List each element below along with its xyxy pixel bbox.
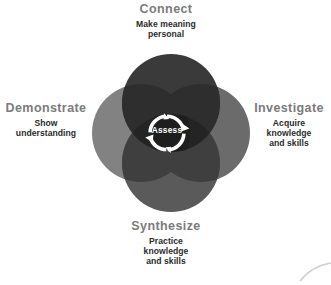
lobe-title-investigate: Investigate — [247, 101, 331, 116]
lobe-subtitle-synthesize-line-1: Practice — [106, 236, 226, 246]
lobe-label-synthesize: Synthesize Practice knowledge and skills — [106, 219, 226, 266]
lobe-subtitle-demonstrate: Show understanding — [2, 118, 90, 138]
lobe-subtitle-synthesize: Practice knowledge and skills — [106, 236, 226, 266]
lobe-label-connect: Connect Make meaning personal — [106, 2, 226, 39]
lobe-subtitle-investigate: Acquire knowledge and skills — [247, 118, 331, 148]
lobe-subtitle-synthesize-line-2: knowledge — [106, 246, 226, 256]
lobe-title-synthesize: Synthesize — [106, 219, 226, 234]
lobe-title-connect: Connect — [106, 2, 226, 17]
lobe-label-demonstrate: Demonstrate Show understanding — [2, 101, 90, 138]
lobe-label-investigate: Investigate Acquire knowledge and skills — [247, 101, 331, 148]
venn-diagram-root: Assess Connect Make meaning personal Inv… — [0, 0, 331, 285]
lobe-subtitle-demonstrate-line-1: Show — [2, 118, 90, 128]
lobe-subtitle-connect: Make meaning personal — [106, 19, 226, 39]
corner-arc-decoration — [300, 263, 331, 281]
lobe-subtitle-investigate-line-3: and skills — [247, 138, 331, 148]
lobe-subtitle-connect-line-2: personal — [106, 29, 226, 39]
lobe-subtitle-demonstrate-line-2: understanding — [2, 128, 90, 138]
lobe-subtitle-investigate-line-2: knowledge — [247, 128, 331, 138]
lobe-subtitle-synthesize-line-3: and skills — [106, 256, 226, 266]
lobe-title-demonstrate: Demonstrate — [2, 101, 90, 116]
lobe-subtitle-investigate-line-1: Acquire — [247, 118, 331, 128]
lobe-subtitle-connect-line-1: Make meaning — [106, 19, 226, 29]
